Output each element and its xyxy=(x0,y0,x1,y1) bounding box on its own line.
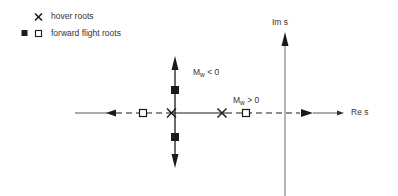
legend-symbols xyxy=(22,14,43,37)
open-square-right xyxy=(243,110,250,117)
open-square-left xyxy=(140,110,147,117)
legend-forward-label: forward flight roots xyxy=(51,28,121,38)
right-arrow-icon xyxy=(301,109,313,117)
imag-axis-arrow-icon xyxy=(282,32,289,46)
legend-cross-icon xyxy=(35,14,42,21)
real-axis xyxy=(75,109,344,117)
up-arrow-icon xyxy=(172,56,179,70)
legend-open-square-icon xyxy=(36,31,42,37)
real-axis-arrow-icon xyxy=(337,111,344,116)
legend-hover-label: hover roots xyxy=(51,11,94,21)
imag-axis xyxy=(282,32,289,196)
imag-axis-label: Im s xyxy=(272,17,288,27)
left-arrow-icon xyxy=(106,110,116,117)
real-axis-label: Re s xyxy=(351,107,368,117)
mw-positive-label: Mw > 0 xyxy=(233,95,259,105)
filled-square-upper xyxy=(171,86,179,94)
legend-filled-square-icon xyxy=(22,30,28,36)
down-arrow-icon xyxy=(172,154,179,168)
filled-square-lower xyxy=(171,133,179,141)
mw-negative-label: Mw < 0 xyxy=(193,67,219,77)
